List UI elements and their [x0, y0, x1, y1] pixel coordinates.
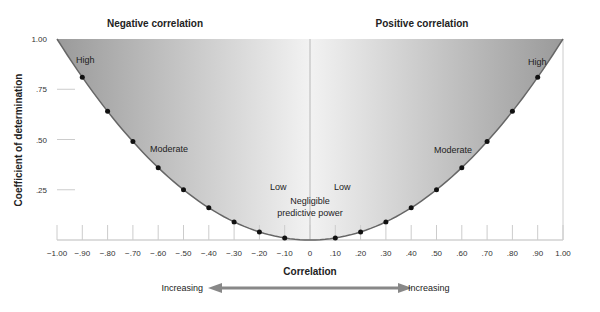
data-point: [130, 139, 135, 144]
x-tick-label: −.90: [74, 249, 90, 258]
shade-negative: [57, 39, 310, 240]
label-right-moderate: Moderate: [434, 145, 472, 155]
shade-positive: [310, 39, 563, 240]
x-tick-label: 1.00: [555, 249, 571, 258]
label-left-moderate: Moderate: [150, 144, 188, 154]
data-point: [459, 165, 464, 170]
x-tick-label: .80: [507, 249, 519, 258]
data-point: [358, 229, 363, 234]
label-left-low: Low: [270, 182, 287, 192]
x-tick-label: .40: [406, 249, 418, 258]
data-point: [105, 109, 110, 114]
data-point: [257, 229, 262, 234]
x-tick-label: −.80: [100, 249, 116, 258]
data-point: [383, 219, 388, 224]
y-tick-label: 1.00: [31, 35, 47, 44]
x-tick-label: −.10: [277, 249, 293, 258]
x-tick-label: −1.00: [47, 249, 68, 258]
x-tick-label: −.30: [226, 249, 242, 258]
y-tick-label: .50: [36, 136, 48, 145]
x-tick-label: .10: [330, 249, 342, 258]
data-point: [282, 235, 287, 240]
increasing-right-label: Increasing: [408, 283, 450, 293]
positive-section-label: Positive correlation: [376, 18, 469, 29]
data-point: [333, 235, 338, 240]
label-left-high: High: [76, 55, 95, 65]
label-right-high: High: [528, 57, 547, 67]
data-point: [156, 165, 161, 170]
x-tick-label: .60: [456, 249, 468, 258]
x-tick-label: .30: [380, 249, 392, 258]
increasing-left-label: Increasing: [161, 283, 203, 293]
x-tick-label: −.50: [176, 249, 192, 258]
data-point: [535, 75, 540, 80]
x-tick-label: .20: [355, 249, 367, 258]
data-point: [434, 187, 439, 192]
data-point: [510, 109, 515, 114]
x-tick-label: .50: [431, 249, 443, 258]
plot-area: −1.00−.90−.80−.70−.60−.50−.40−.30−.20−.1…: [31, 35, 571, 258]
y-tick-label: .75: [36, 85, 48, 94]
data-point: [181, 187, 186, 192]
x-tick-label: −.20: [252, 249, 268, 258]
label-predictive-power: predictive power: [277, 208, 343, 218]
data-point: [206, 205, 211, 210]
increasing-arrow: [208, 283, 412, 293]
x-axis-label: Correlation: [283, 266, 336, 277]
label-negligible: Negligible: [290, 196, 330, 206]
correlation-chart: −1.00−.90−.80−.70−.60−.50−.40−.30−.20−.1…: [0, 0, 600, 312]
data-point: [80, 75, 85, 80]
x-tick-label: −.40: [201, 249, 217, 258]
label-right-low: Low: [334, 182, 351, 192]
x-tick-label: 0: [308, 249, 313, 258]
negative-section-label: Negative correlation: [107, 18, 203, 29]
data-point: [409, 205, 414, 210]
y-axis-label: Coefficient of determination: [13, 74, 24, 207]
data-point: [232, 219, 237, 224]
x-tick-label: .70: [482, 249, 494, 258]
x-tick-label: −.60: [150, 249, 166, 258]
x-tick-label: −.70: [125, 249, 141, 258]
data-point: [485, 139, 490, 144]
y-tick-label: .25: [36, 186, 48, 195]
x-tick-label: .90: [532, 249, 544, 258]
